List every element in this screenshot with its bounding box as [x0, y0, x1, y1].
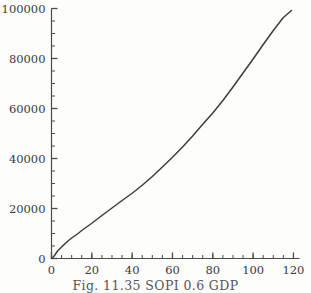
figure-caption: Fig. 11.35 SOPI 0.6 GDP	[0, 279, 311, 293]
gdp-line-chart: 0204060801001200200004000060000800001000…	[0, 0, 311, 293]
y-axis-tick-label: 60000	[9, 102, 46, 116]
tick-labels-group: 0204060801001200200004000060000800001000…	[2, 2, 305, 277]
x-axis-tick-label: 100	[242, 263, 264, 277]
data-series-group	[52, 11, 292, 259]
data-line-gdp	[52, 11, 292, 259]
y-axis-tick-label: 40000	[9, 152, 46, 166]
x-axis-tick-label: 0	[48, 263, 55, 277]
y-axis-tick-label: 80000	[9, 52, 46, 66]
x-axis-tick-label: 80	[205, 263, 220, 277]
x-axis-tick-label: 120	[282, 263, 304, 277]
x-axis-tick-label: 60	[165, 263, 180, 277]
x-axis-tick-label: 20	[85, 263, 100, 277]
y-axis-tick-label: 20000	[9, 202, 46, 216]
tick-marks-group	[52, 9, 294, 259]
y-axis-tick-label: 100000	[2, 2, 46, 16]
figure-container: 0204060801001200200004000060000800001000…	[0, 0, 311, 293]
y-axis-tick-label: 0	[38, 252, 45, 266]
x-axis-tick-label: 40	[125, 263, 140, 277]
